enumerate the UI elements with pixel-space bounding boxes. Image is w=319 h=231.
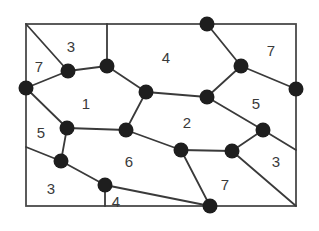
region-label: 7 — [35, 58, 43, 75]
graph-edge — [26, 88, 67, 128]
region-label: 4 — [112, 193, 120, 210]
graph-node — [200, 17, 215, 32]
graph-node — [200, 90, 215, 105]
region-label: 5 — [37, 124, 45, 141]
graph-node — [225, 144, 240, 159]
graph-node — [60, 121, 75, 136]
graph-node — [203, 199, 218, 214]
graph-edge — [105, 185, 210, 206]
graph-node — [139, 85, 154, 100]
graph-edge — [61, 161, 105, 185]
region-label: 3 — [47, 180, 55, 197]
region-label: 7 — [267, 42, 275, 59]
graph-edge — [67, 128, 126, 130]
graph-edge — [26, 24, 68, 71]
graph-edge — [241, 66, 296, 89]
map-diagram: 3747152563374 — [0, 0, 319, 231]
graph-edge — [181, 150, 210, 206]
graph-nodes — [19, 17, 304, 214]
region-label: 2 — [183, 114, 191, 131]
region-label: 1 — [82, 95, 90, 112]
graph-node — [98, 178, 113, 193]
graph-edge — [232, 151, 296, 206]
graph-node — [256, 123, 271, 138]
graph-node — [234, 59, 249, 74]
region-label: 3 — [67, 38, 75, 55]
graph-node — [19, 81, 34, 96]
graph-node — [54, 154, 69, 169]
graph-edge — [181, 150, 232, 151]
graph-node — [174, 143, 189, 158]
graph-node — [100, 59, 115, 74]
region-label: 3 — [272, 153, 280, 170]
graph-node — [61, 64, 76, 79]
region-label: 7 — [221, 176, 229, 193]
graph-node — [119, 123, 134, 138]
graph-node — [289, 82, 304, 97]
graph-edge — [207, 24, 241, 66]
graph-edge — [126, 130, 181, 150]
region-label: 4 — [162, 49, 170, 66]
region-label: 6 — [125, 153, 133, 170]
graph-edge — [146, 92, 207, 97]
region-label: 5 — [252, 95, 260, 112]
